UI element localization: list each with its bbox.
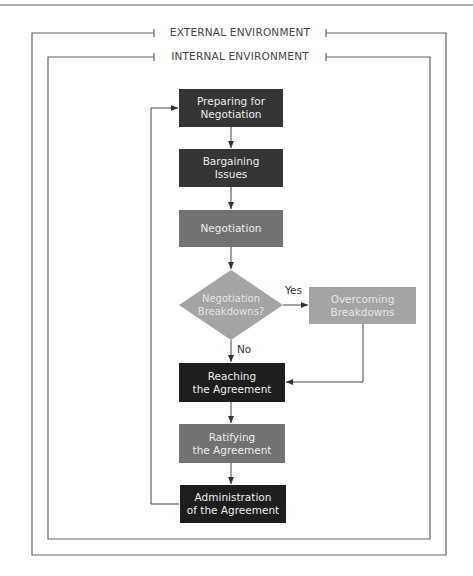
node-label: Administration of the Agreement <box>187 491 279 517</box>
internal-environment-label: INTERNAL ENVIRONMENT <box>160 50 320 62</box>
node-label: Overcoming Breakdowns <box>330 293 394 319</box>
node-reaching-the-agreement: Reaching the Agreement <box>179 363 285 402</box>
node-negotiation: Negotiation <box>179 210 283 247</box>
yes-label: Yes <box>285 284 302 296</box>
external-environment-label: EXTERNAL ENVIRONMENT <box>160 26 320 38</box>
node-label: Ratifying the Agreement <box>193 431 272 457</box>
no-label: No <box>237 343 251 355</box>
node-administration-of-the-agreement: Administration of the Agreement <box>180 485 286 523</box>
node-label: Negotiation <box>201 222 262 235</box>
node-bargaining-issues: Bargaining Issues <box>179 149 283 187</box>
node-label: Bargaining Issues <box>203 155 260 181</box>
node-label: Preparing for Negotiation <box>197 95 265 121</box>
node-preparing-for-negotiation: Preparing for Negotiation <box>179 89 283 127</box>
node-overcoming-breakdowns: Overcoming Breakdowns <box>309 287 416 324</box>
node-label: Reaching the Agreement <box>193 370 272 396</box>
decision-label: Negotiation Breakdowns? <box>181 292 281 318</box>
node-ratifying-the-agreement: Ratifying the Agreement <box>179 424 285 463</box>
